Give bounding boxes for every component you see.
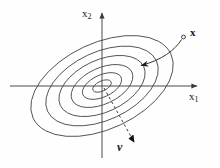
point-x-label: x: [190, 27, 196, 38]
point-x-marker: [182, 35, 186, 39]
x1-axis-label-subscript: 1: [195, 95, 199, 104]
figure-container: x2 x1 x v: [0, 0, 220, 168]
x2-axis-label: x2: [82, 8, 92, 21]
vector-v-label: v: [117, 141, 122, 153]
x1-axis-label: x1: [189, 91, 199, 104]
contour-diagram-svg: [0, 0, 220, 168]
curved-arrow-to-center: [141, 40, 182, 66]
x2-axis-label-subscript: 2: [88, 12, 92, 21]
vector-v-dashed-line: [104, 88, 134, 142]
